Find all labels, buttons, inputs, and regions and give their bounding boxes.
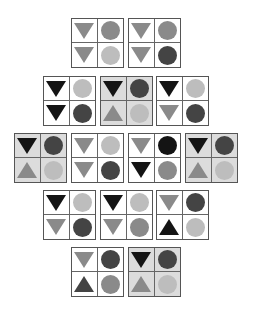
card-cell [129, 43, 155, 67]
card-cell [72, 19, 98, 43]
card-cell [127, 191, 153, 215]
card-cell [155, 248, 181, 272]
triangle-down-icon [74, 47, 94, 63]
circle-icon [73, 79, 92, 98]
card-cell [129, 19, 155, 43]
triangle-down-icon [74, 23, 94, 39]
pattern-card [43, 76, 96, 126]
card-cell [183, 215, 209, 239]
card-cell [98, 272, 124, 296]
pattern-card [100, 76, 153, 126]
triangle-down-icon [74, 252, 94, 268]
circle-icon [73, 218, 92, 237]
card-cell [183, 101, 209, 125]
card-cell [155, 19, 181, 43]
circle-icon [158, 136, 177, 155]
card-cell [127, 77, 153, 101]
triangle-up-icon [131, 276, 151, 292]
card-cell [101, 215, 127, 239]
circle-icon [101, 46, 120, 65]
triangle-up-icon [17, 162, 37, 178]
circle-icon [101, 136, 120, 155]
circle-icon [73, 104, 92, 123]
card-cell [98, 134, 124, 158]
triangle-down-icon [46, 105, 66, 121]
pattern-card [185, 133, 238, 183]
circle-icon [101, 161, 120, 180]
card-cell [155, 134, 181, 158]
circle-icon [158, 250, 177, 269]
card-cell [129, 134, 155, 158]
card-cell [15, 134, 41, 158]
card-cell [157, 215, 183, 239]
circle-icon [130, 193, 149, 212]
card-cell [183, 77, 209, 101]
circle-icon [158, 46, 177, 65]
pattern-card [156, 190, 209, 240]
card-cell [157, 191, 183, 215]
card-cell [72, 272, 98, 296]
triangle-down-icon [103, 81, 123, 97]
pattern-card [128, 133, 181, 183]
card-cell [72, 158, 98, 182]
circle-icon [130, 218, 149, 237]
triangle-up-icon [188, 162, 208, 178]
circle-icon [101, 250, 120, 269]
card-cell [44, 191, 70, 215]
circle-icon [130, 104, 149, 123]
circle-icon [186, 104, 205, 123]
card-cell [186, 134, 212, 158]
card-cell [98, 158, 124, 182]
card-cell [212, 134, 238, 158]
triangle-down-icon [17, 138, 37, 154]
card-cell [70, 215, 96, 239]
circle-icon [44, 161, 63, 180]
card-cell [44, 215, 70, 239]
circle-icon [158, 161, 177, 180]
triangle-up-icon [159, 219, 179, 235]
card-cell [44, 101, 70, 125]
circle-icon [215, 136, 234, 155]
triangle-down-icon [46, 219, 66, 235]
triangle-down-icon [131, 47, 151, 63]
triangle-down-icon [131, 252, 151, 268]
triangle-up-icon [103, 105, 123, 121]
card-cell [155, 272, 181, 296]
circle-icon [158, 275, 177, 294]
card-cell [70, 77, 96, 101]
card-cell [212, 158, 238, 182]
triangle-down-icon [159, 195, 179, 211]
pattern-card [128, 18, 181, 68]
circle-icon [44, 136, 63, 155]
circle-icon [186, 193, 205, 212]
pattern-card [14, 133, 67, 183]
card-cell [72, 248, 98, 272]
card-cell [129, 158, 155, 182]
triangle-down-icon [131, 138, 151, 154]
card-cell [70, 101, 96, 125]
card-cell [183, 191, 209, 215]
triangle-down-icon [131, 23, 151, 39]
card-cell [101, 101, 127, 125]
triangle-down-icon [159, 81, 179, 97]
triangle-down-icon [188, 138, 208, 154]
card-cell [157, 77, 183, 101]
pattern-card [100, 190, 153, 240]
pattern-card [71, 133, 124, 183]
triangle-down-icon [103, 195, 123, 211]
pattern-card [71, 18, 124, 68]
card-cell [70, 191, 96, 215]
card-cell [101, 77, 127, 101]
card-cell [129, 248, 155, 272]
card-cell [98, 19, 124, 43]
triangle-up-icon [74, 276, 94, 292]
card-cell [41, 158, 67, 182]
circle-icon [186, 79, 205, 98]
triangle-down-icon [74, 138, 94, 154]
card-cell [98, 248, 124, 272]
pattern-card [128, 247, 181, 297]
pattern-card [71, 247, 124, 297]
card-cell [155, 158, 181, 182]
card-cell [44, 77, 70, 101]
circle-icon [101, 275, 120, 294]
